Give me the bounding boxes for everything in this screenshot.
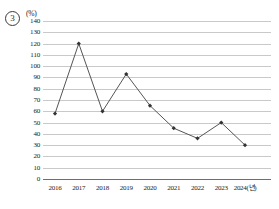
y-axis-tick-label: 80 bbox=[33, 85, 40, 92]
x-axis-tick-label: 2016 bbox=[49, 184, 62, 192]
x-axis-tick-label: 2019 bbox=[120, 184, 133, 192]
y-axis-tick-label: 60 bbox=[33, 108, 40, 115]
x-axis-tick-label: 2023 bbox=[215, 184, 228, 192]
item-number-badge: 3 bbox=[5, 11, 20, 26]
y-axis-tick-label: 120 bbox=[30, 40, 40, 47]
line-series bbox=[43, 21, 271, 179]
x-axis-tick-label: 2021 bbox=[167, 184, 180, 192]
y-axis-tick-label: 140 bbox=[30, 18, 40, 25]
x-axis-tick-label: 2024(년) bbox=[234, 184, 257, 192]
y-axis-tick-label: 40 bbox=[33, 130, 40, 137]
y-axis-tick-label: 130 bbox=[30, 29, 40, 36]
x-axis-tick-label: 2017 bbox=[72, 184, 85, 192]
x-axis-tick-label: 2020 bbox=[144, 184, 157, 192]
x-axis-tick-label: 2022 bbox=[191, 184, 204, 192]
data-point-marker bbox=[53, 111, 57, 115]
chart-figure: 3 (%) 0102030405060708090100110120130140… bbox=[0, 0, 279, 209]
x-axis-tick-label: 2018 bbox=[96, 184, 109, 192]
data-point-marker bbox=[77, 41, 81, 45]
plot-area: 0102030405060708090100110120130140 20162… bbox=[43, 21, 271, 179]
y-axis-tick-label: 110 bbox=[30, 51, 40, 58]
y-axis-tick-label: 10 bbox=[33, 164, 40, 171]
series-polyline bbox=[55, 44, 245, 146]
y-axis-tick-label: 70 bbox=[33, 97, 40, 104]
axis-baseline bbox=[43, 179, 271, 180]
y-axis-tick-label: 30 bbox=[33, 142, 40, 149]
y-axis-tick-label: 100 bbox=[30, 63, 40, 70]
y-axis-tick-label: 0 bbox=[37, 176, 40, 183]
series-markers bbox=[53, 41, 247, 147]
y-axis-tick-label: 50 bbox=[33, 119, 40, 126]
y-axis-tick-label: 20 bbox=[33, 153, 40, 160]
y-axis-tick-label: 90 bbox=[33, 74, 40, 81]
